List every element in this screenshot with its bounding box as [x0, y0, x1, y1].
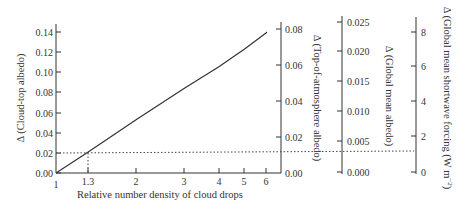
- x-tick-label: 1.3: [82, 176, 95, 187]
- forcing-title-end: ): [441, 186, 453, 190]
- toa-tick-label: 0.00: [285, 168, 303, 179]
- x-tick-label: 5: [242, 176, 247, 187]
- left-tick-label: 0.10: [36, 67, 54, 78]
- x-tick-label: 3: [182, 176, 187, 187]
- global-tick-label: 0.010: [347, 106, 370, 117]
- albedo-chart: 11.3234560.000.020.040.060.080.100.120.1…: [0, 0, 464, 212]
- forcing-tick-label: 6: [421, 61, 426, 72]
- forcing-tick-label: 2: [421, 131, 426, 142]
- x-tick-label: 6: [264, 176, 269, 187]
- global-axis-title: Δ (Global mean albedo): [383, 46, 395, 147]
- forcing-title-main: Δ (Global mean shortwave forcing (W m: [441, 7, 453, 179]
- global-tick-label: 0.020: [347, 46, 370, 57]
- left-tick-label: 0.02: [36, 148, 54, 159]
- global-tick-label: 0.015: [347, 76, 370, 87]
- toa-tick-label: 0.04: [285, 96, 303, 107]
- x-tick-label: 2: [134, 176, 139, 187]
- left-tick-label: 0.08: [36, 87, 54, 98]
- ref-horizontal: [56, 151, 414, 153]
- global-tick-label: 0.025: [347, 17, 370, 28]
- left-tick-label: 0.12: [36, 47, 54, 58]
- main-axes: [56, 16, 416, 174]
- global-tick-label: 0.005: [347, 136, 370, 147]
- left-tick-label: 0.14: [36, 27, 54, 38]
- toa-tick-label: 0.02: [285, 132, 303, 143]
- forcing-tick-label: 0: [421, 167, 426, 178]
- forcing-tick-label: 8: [421, 27, 426, 38]
- forcing-tick-label: 4: [421, 96, 426, 107]
- toa-axis-title: Δ (Top-of-atmosphere albedo): [311, 35, 323, 162]
- left-tick-label: 0.04: [36, 128, 54, 139]
- left-tick-label: 0.00: [36, 168, 54, 179]
- x-tick-label: 4: [217, 176, 222, 187]
- forcing-axis-title: Δ (Global mean shortwave forcing (W m−2): [441, 7, 454, 190]
- toa-tick-label: 0.08: [285, 24, 303, 35]
- toa-tick-label: 0.06: [285, 60, 303, 71]
- global-tick-label: 0.000: [347, 167, 370, 178]
- x-tick-label: 1: [54, 179, 59, 190]
- left-tick-label: 0.06: [36, 108, 54, 119]
- ticks-layer: 11.3234560.000.020.040.060.080.100.120.1…: [36, 17, 427, 191]
- left-axis-title: Δ (Cloud-top albedo): [15, 53, 27, 142]
- x-axis-title: Relative number density of cloud drops: [77, 189, 243, 200]
